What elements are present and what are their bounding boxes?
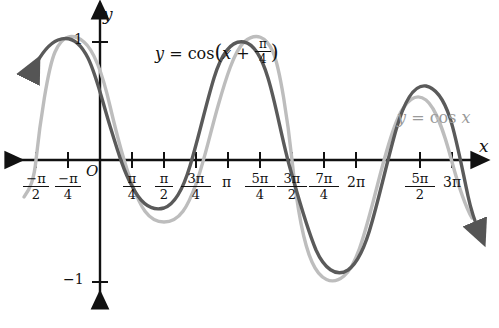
curve-label-cos: y = cos x [397, 108, 471, 127]
x-tick-num: −π [55, 172, 81, 185]
x-tick-label-pi-over-2: π 2 [155, 172, 173, 201]
x-tick-den: 4 [181, 188, 211, 201]
x-tick-num: 5π [405, 172, 435, 185]
x-tick-label-3pi-over-2: 3π 2 [277, 172, 307, 201]
origin-label: O [86, 162, 98, 180]
x-tick-num: 7π [309, 172, 339, 185]
graph-canvas: y x O 1 −1 −π 2 −π 4 π 4 π 2 3π 4 π 5π 4… [0, 0, 499, 328]
x-tick-label-7pi-over-4: 7π 4 [309, 172, 339, 201]
x-tick-label-5pi-over-4: 5π 4 [245, 172, 275, 201]
x-tick-label-3pi: 3π [443, 174, 461, 190]
x-tick-den: 2 [405, 188, 435, 201]
x-tick-label-pi-over-4: π 4 [123, 172, 141, 201]
x-tick-num: π [123, 172, 141, 185]
x-tick-label-neg-pi-over-4: −π 4 [55, 172, 81, 201]
x-tick-den: 2 [277, 188, 307, 201]
x-tick-den: 2 [155, 188, 173, 201]
y-axis-label: y [103, 4, 113, 24]
curve-label-cos-text: y = cos x [397, 108, 471, 127]
x-tick-label-3pi-over-4: 3π 4 [181, 172, 211, 201]
x-tick-den: 4 [55, 188, 81, 201]
x-tick-den: 2 [23, 188, 49, 201]
x-tick-num: 3π [181, 172, 211, 185]
x-tick-num: π [155, 172, 173, 185]
x-tick-den: 4 [245, 188, 275, 201]
x-tick-label-neg-pi-over-2: −π 2 [23, 172, 49, 201]
x-tick-den: 4 [309, 188, 339, 201]
x-axis-label: x [479, 136, 489, 156]
y-tick-label-1: 1 [74, 31, 83, 47]
curve-label-shifted-text: y = cos(x + π 4 ) [155, 44, 279, 63]
x-tick-num: 5π [245, 172, 275, 185]
curve-label-shifted: y = cos(x + π 4 ) [155, 38, 279, 65]
x-tick-den: 4 [123, 188, 141, 201]
y-tick-label-neg1: −1 [63, 271, 84, 287]
x-tick-num: −π [23, 172, 49, 185]
x-tick-label-pi: π [222, 174, 231, 190]
x-tick-num: 3π [277, 172, 307, 185]
x-tick-label-5pi-over-2: 5π 2 [405, 172, 435, 201]
curve-cos-x [24, 37, 472, 281]
x-tick-label-2pi: 2π [347, 174, 365, 190]
